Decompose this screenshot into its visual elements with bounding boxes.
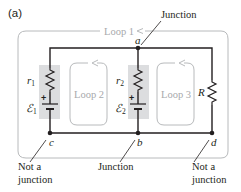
label-r2: r2 [116,74,124,88]
callout-junction-top: Junction [161,9,197,20]
loop1-arrow-icon [137,29,143,34]
loop3-label: Loop 3 [161,89,191,100]
node-d-dot [210,131,215,136]
callout-junction-bottom: Junction [98,161,134,172]
label-r1: r1 [27,74,35,88]
node-a-label: a [135,34,141,46]
label-e2: ℰ2 [115,102,126,116]
resistor-R-icon [208,80,216,105]
circuit-diagram: (a) Loop 1 Loop 2 Loop 3 + [0,0,241,192]
node-b-dot [136,131,141,136]
label-R: R [197,86,205,98]
node-a-dot [136,46,141,51]
node-b-label: b [137,136,143,148]
node-d-label: d [211,136,217,148]
label-e1: ℰ1 [26,102,37,116]
loop2-label: Loop 2 [74,89,104,100]
callout-not-junction-left-line1: Not a [18,161,41,172]
loop1-label: Loop 1 [104,26,134,37]
node-c-dot [48,131,53,136]
callout-not-junction-right-line2: junction [191,174,227,185]
panel-label: (a) [8,7,22,19]
callout-not-junction-left-line2: junction [17,174,53,185]
battery-e1-plus: + [41,93,46,103]
battery-e2-plus: + [129,93,134,103]
callout-not-junction-right-line1: Not a [192,161,215,172]
node-c-label: c [49,136,54,148]
